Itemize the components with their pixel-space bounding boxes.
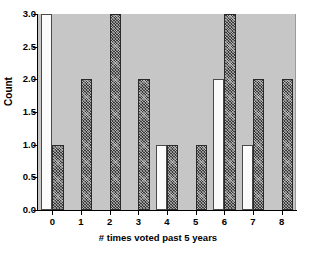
bar-hatched-2: [110, 14, 121, 210]
bar-hatched-8: [282, 79, 293, 210]
bar-hatched-3: [138, 79, 149, 210]
y-axis-tick-labels: 0.00.51.01.52.02.53.0: [8, 0, 36, 257]
bar-hatched-6: [224, 14, 235, 210]
bar-open-4: [156, 145, 167, 210]
y-tick-mark: [33, 210, 37, 211]
bar-open-6: [213, 79, 224, 210]
x-tick-label: 4: [157, 216, 177, 227]
x-tick-mark: [52, 211, 53, 215]
bar-open-0: [41, 14, 52, 210]
x-tick-label: 5: [186, 216, 206, 227]
x-tick-mark: [167, 211, 168, 215]
bar-hatched-7: [253, 79, 264, 210]
y-tick-mark: [33, 177, 37, 178]
x-tick-label: 6: [214, 216, 234, 227]
bar-hatched-0: [52, 145, 63, 210]
x-tick-label: 3: [128, 216, 148, 227]
y-tick-mark: [33, 145, 37, 146]
x-tick-label: 1: [71, 216, 91, 227]
x-tick-label: 0: [42, 216, 62, 227]
bar-hatched-4: [167, 145, 178, 210]
x-tick-mark: [224, 211, 225, 215]
x-tick-mark: [138, 211, 139, 215]
bar-hatched-5: [196, 145, 207, 210]
y-tick-mark: [33, 79, 37, 80]
y-tick-mark: [33, 112, 37, 113]
x-tick-label: 7: [243, 216, 263, 227]
x-tick-mark: [253, 211, 254, 215]
plot-area: [38, 14, 296, 210]
chart-figure: Count 0.00.51.01.52.02.53.0 # times vote…: [0, 0, 316, 257]
bar-hatched-1: [81, 79, 92, 210]
x-tick-label: 2: [100, 216, 120, 227]
x-axis-title: # times voted past 5 years: [0, 232, 316, 243]
bar-open-7: [242, 145, 253, 210]
x-tick-mark: [110, 211, 111, 215]
x-tick-label: 8: [272, 216, 292, 227]
y-tick-mark: [33, 14, 37, 15]
x-tick-mark: [196, 211, 197, 215]
x-tick-mark: [81, 211, 82, 215]
y-tick-mark: [33, 47, 37, 48]
x-tick-mark: [282, 211, 283, 215]
